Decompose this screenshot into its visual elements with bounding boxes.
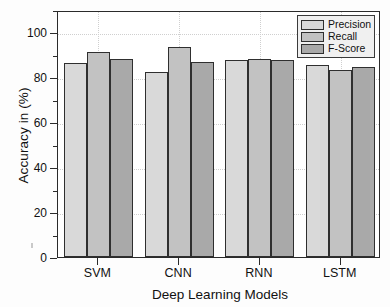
bar-svm-precision — [64, 63, 87, 257]
y-tick-major — [50, 213, 57, 214]
y-tick-label: 60 — [7, 116, 47, 130]
x-tick-major — [259, 258, 260, 265]
y-tick-major — [50, 123, 57, 124]
bar-svm-f-score — [110, 59, 133, 257]
y-tick-label: 40 — [7, 161, 47, 175]
x-axis-title: Deep Learning Models — [55, 287, 385, 302]
bar-rnn-f-score — [271, 60, 294, 257]
bar-lstm-precision — [306, 65, 329, 257]
bar-lstm-recall — [329, 70, 352, 257]
x-tick-label-rnn: RNN — [224, 266, 294, 280]
x-tick-major — [178, 258, 179, 265]
bar-cnn-precision — [145, 72, 168, 257]
y-tick-label: 80 — [7, 71, 47, 85]
legend-item-f-score: F-Score — [301, 43, 371, 54]
legend-item-recall: Recall — [301, 31, 371, 42]
x-tick-label-lstm: LSTM — [305, 266, 375, 280]
y-tick-major — [50, 258, 57, 259]
legend: PrecisionRecallF-Score — [297, 15, 375, 58]
bar-cnn-recall — [168, 47, 191, 257]
legend-label: Precision — [328, 19, 371, 30]
legend-label: Recall — [328, 31, 357, 42]
x-tick-major — [340, 258, 341, 265]
legend-swatch-icon — [301, 44, 324, 54]
x-tick-major — [97, 258, 98, 265]
legend-rows: PrecisionRecallF-Score — [301, 19, 371, 54]
bar-svm-recall — [87, 52, 110, 257]
bar-chart: Accuracy in (%) 020406080100 SVMCNNRNNLS… — [0, 0, 390, 307]
legend-swatch-icon — [301, 32, 324, 42]
y-tick-major — [50, 78, 57, 79]
y-tick-label: 100 — [7, 26, 47, 40]
legend-swatch-icon — [301, 20, 324, 30]
bar-rnn-precision — [225, 60, 248, 257]
bar-cnn-f-score — [191, 62, 214, 257]
x-tick-label-svm: SVM — [62, 266, 132, 280]
legend-label: F-Score — [328, 43, 365, 54]
legend-item-precision: Precision — [301, 19, 371, 30]
x-tick-label-cnn: CNN — [143, 266, 213, 280]
y-tick-label: 0 — [7, 251, 47, 265]
y-tick-major — [50, 168, 57, 169]
scan-speck — [31, 243, 33, 248]
bar-rnn-recall — [248, 59, 271, 257]
y-tick-label: 20 — [7, 206, 47, 220]
y-tick-major — [50, 33, 57, 34]
bar-lstm-f-score — [352, 67, 375, 257]
